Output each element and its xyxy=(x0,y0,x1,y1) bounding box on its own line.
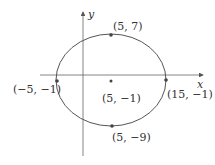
top-vertex-label: (5, 7) xyxy=(113,20,143,33)
right-vertex-label: (15, −1) xyxy=(167,88,213,101)
left-vertex-label: (−5, −1) xyxy=(13,83,61,96)
top-vertex-point xyxy=(109,33,113,37)
ellipse-diagram: x y (5, 7) (5, −9) (−5, −1) (15, −1) (5,… xyxy=(0,0,215,165)
center-label: (5, −1) xyxy=(102,92,141,105)
y-axis-label: y xyxy=(87,8,95,21)
right-vertex-point xyxy=(164,78,168,82)
bottom-vertex-label: (5, −9) xyxy=(112,131,151,144)
bottom-vertex-point xyxy=(110,124,114,128)
center-point xyxy=(110,80,113,83)
